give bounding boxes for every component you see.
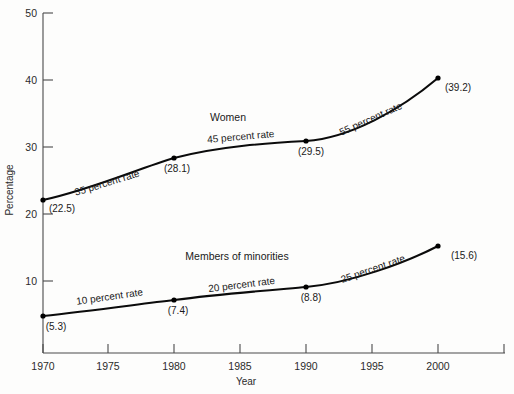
x-tick-label-1970: 1970 xyxy=(31,360,55,372)
line-chart: 50 40 30 20 10 1970 1975 1980 1985 1990 … xyxy=(0,0,514,394)
x-tick-label-2000: 2000 xyxy=(426,360,450,372)
x-tick-label-1980: 1980 xyxy=(162,360,186,372)
women-series-label: Women xyxy=(210,111,246,123)
y-tick-label-20: 20 xyxy=(25,208,37,220)
minorities-label-1970: (5.3) xyxy=(46,321,67,332)
women-point-1980 xyxy=(171,155,176,160)
y-tick-label-30: 30 xyxy=(25,141,37,153)
minorities-segment-label-1: 10 percent rate xyxy=(75,286,144,306)
y-tick-label-40: 40 xyxy=(25,74,37,86)
women-segment-label-1: 35 percent rate xyxy=(73,167,141,197)
minorities-label-1990: (8.8) xyxy=(301,292,322,303)
x-tick-label-1975: 1975 xyxy=(96,360,120,372)
women-label-1980: (28.1) xyxy=(164,163,190,174)
women-segment-label-3: 55 percent rate xyxy=(338,100,404,138)
y-tick-label-10: 10 xyxy=(25,275,37,287)
x-tick-label-1985: 1985 xyxy=(228,360,252,372)
minorities-label-1980: (7.4) xyxy=(168,305,189,316)
women-point-1970 xyxy=(40,197,45,202)
minorities-point-1980 xyxy=(171,297,176,302)
y-tick-label-50: 50 xyxy=(25,7,37,19)
women-label-1990: (29.5) xyxy=(298,146,324,157)
x-tick-label-1990: 1990 xyxy=(294,360,318,372)
x-tick-label-1995: 1995 xyxy=(360,360,384,372)
minorities-series-label: Members of minorities xyxy=(185,250,288,262)
x-axis-title: Year xyxy=(236,376,257,387)
women-point-2000 xyxy=(435,75,440,80)
minorities-point-2000 xyxy=(435,243,440,248)
women-segment-label-2: 45 percent rate xyxy=(207,128,275,145)
minorities-label-2000: (15.6) xyxy=(451,250,477,261)
women-point-1990 xyxy=(303,138,308,143)
minorities-point-1970 xyxy=(40,313,45,318)
minorities-point-1990 xyxy=(303,284,308,289)
minorities-segment-label-3: 25 percent rate xyxy=(339,252,407,284)
women-label-2000: (39.2) xyxy=(445,82,471,93)
y-axis-title: Percentage xyxy=(4,164,15,216)
women-label-1970: (22.5) xyxy=(49,203,75,214)
chart-container: 50 40 30 20 10 1970 1975 1980 1985 1990 … xyxy=(0,0,514,394)
